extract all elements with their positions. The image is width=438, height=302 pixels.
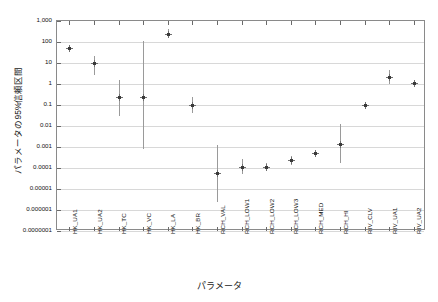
x-tick-mark <box>414 227 415 231</box>
x-tick-mark <box>315 227 316 231</box>
data-point-marker[interactable] <box>314 152 317 155</box>
x-tick-mark <box>217 227 218 231</box>
y-tick-label: 100 <box>0 37 52 44</box>
data-point-marker[interactable] <box>339 143 342 146</box>
x-tick-mark <box>291 227 292 231</box>
y-gridline <box>57 189 424 190</box>
y-tick-mark <box>57 231 61 232</box>
x-tick-mark <box>168 227 169 231</box>
chart-root: パラメータの95%信頼区間 1,0001001010.10.010.0010.0… <box>0 0 438 302</box>
x-tick-mark <box>365 227 366 231</box>
x-tick-mark <box>266 227 267 231</box>
y-tick-label: 0.1 <box>0 100 52 107</box>
x-tick-mark-top <box>340 21 341 25</box>
x-tick-mark <box>192 227 193 231</box>
data-point-marker[interactable] <box>216 172 219 175</box>
x-tick-mark-top <box>389 21 390 25</box>
x-tick-mark-top <box>414 21 415 25</box>
y-tick-mark <box>57 210 61 211</box>
x-tick-mark-top <box>365 21 366 25</box>
y-tick-mark <box>57 126 61 127</box>
x-tick-mark-top <box>69 21 70 25</box>
x-tick-mark-top <box>192 21 193 25</box>
y-tick-label: 0.0000001 <box>0 226 52 233</box>
x-tick-mark-top <box>266 21 267 25</box>
y-gridline <box>57 231 424 232</box>
x-tick-mark <box>143 227 144 231</box>
y-tick-label: 1 <box>0 79 52 86</box>
x-tick-mark <box>389 227 390 231</box>
y-tick-mark <box>57 63 61 64</box>
y-axis-title: パラメータの95%信頼区間 <box>11 35 23 205</box>
x-tick-mark-top <box>94 21 95 25</box>
y-gridline <box>57 147 424 148</box>
data-point-marker[interactable] <box>413 82 416 85</box>
y-tick-mark <box>57 189 61 190</box>
y-gridline <box>57 63 424 64</box>
x-tick-mark <box>340 227 341 231</box>
y-tick-mark <box>57 42 61 43</box>
y-gridline <box>57 126 424 127</box>
y-tick-label: 1,000 <box>0 16 52 23</box>
x-tick-mark-top <box>217 21 218 25</box>
x-tick-mark-top <box>119 21 120 25</box>
x-tick-mark-top <box>242 21 243 25</box>
y-tick-mark <box>57 147 61 148</box>
data-point-marker[interactable] <box>93 62 96 65</box>
y-tick-label: 0.000001 <box>0 205 52 212</box>
x-tick-mark <box>94 227 95 231</box>
y-tick-label: 0.01 <box>0 121 52 128</box>
y-tick-mark <box>57 84 61 85</box>
y-tick-label: 0.001 <box>0 142 52 149</box>
x-tick-mark <box>242 227 243 231</box>
y-tick-mark <box>57 21 61 22</box>
data-point-marker[interactable] <box>142 96 145 99</box>
y-gridline <box>57 84 424 85</box>
data-point-marker[interactable] <box>388 76 391 79</box>
x-tick-mark-top <box>143 21 144 25</box>
plot-area <box>56 20 425 230</box>
y-tick-mark <box>57 168 61 169</box>
y-gridline <box>57 42 424 43</box>
y-tick-mark <box>57 105 61 106</box>
x-tick-mark-top <box>315 21 316 25</box>
x-tick-mark <box>69 227 70 231</box>
y-gridline <box>57 210 424 211</box>
x-axis-title: パラメータ <box>0 279 438 292</box>
data-point-marker[interactable] <box>191 104 194 107</box>
y-tick-label: 0.0001 <box>0 163 52 170</box>
data-point-marker[interactable] <box>241 166 244 169</box>
data-point-marker[interactable] <box>68 47 71 50</box>
data-point-marker[interactable] <box>118 96 121 99</box>
x-tick-mark-top <box>168 21 169 25</box>
data-point-marker[interactable] <box>167 33 170 36</box>
y-gridline <box>57 105 424 106</box>
x-tick-mark-top <box>291 21 292 25</box>
data-point-marker[interactable] <box>290 159 293 162</box>
y-tick-label: 0.00001 <box>0 184 52 191</box>
y-tick-label: 10 <box>0 58 52 65</box>
data-point-marker[interactable] <box>364 104 367 107</box>
x-tick-mark <box>119 227 120 231</box>
data-point-marker[interactable] <box>265 166 268 169</box>
